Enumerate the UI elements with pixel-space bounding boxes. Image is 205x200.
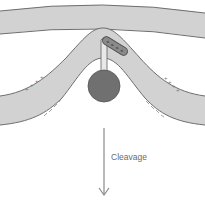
svg-text:+: +: [40, 74, 44, 80]
svg-text:+: +: [30, 82, 34, 88]
cleavage-label: Cleavage: [111, 152, 147, 162]
protein-globular-domain: [88, 70, 120, 102]
diagram-canvas: + + + + + + + + + + + +: [0, 0, 205, 200]
svg-text:+: +: [176, 87, 180, 93]
svg-text:+: +: [35, 78, 39, 84]
cleavage-arrow: [99, 128, 109, 195]
svg-text:+: +: [25, 86, 29, 92]
